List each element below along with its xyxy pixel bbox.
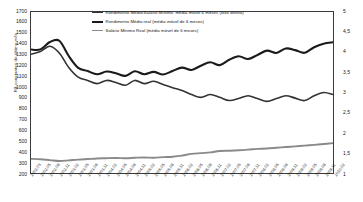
y-tick-left: 300 <box>2 161 27 166</box>
series-line-1 <box>31 40 333 76</box>
y-tick-right: 5 <box>343 9 346 14</box>
legend-swatch-icon <box>92 21 103 23</box>
x-axis: 2002.032002.052002.082002.112003.022003.… <box>30 175 334 202</box>
legend-label: Salário Mínimo Real (média móvel de 6 me… <box>106 28 199 33</box>
y-tick-right: 3 <box>343 90 346 95</box>
y-tick-right: 2 <box>343 131 346 136</box>
chart-container: R$ constantes do último mês 170016001500… <box>0 0 363 202</box>
y-tick-left: 700 <box>2 117 27 122</box>
y-tick-left: 500 <box>2 139 27 144</box>
y-tick-left: 200 <box>2 172 27 177</box>
y-tick-left: 800 <box>2 106 27 111</box>
y-tick-right: 4,5 <box>343 29 350 34</box>
legend-item-2: Salário Mínimo Real (média móvel de 6 me… <box>92 26 307 35</box>
plot-area <box>30 11 334 174</box>
y-tick-right: 1 <box>343 172 346 177</box>
y-tick-right: 4 <box>343 49 346 54</box>
y-tick-right: 2,5 <box>343 110 350 115</box>
chart-legend: Rendimento Médio/Salário Mínimo: média m… <box>92 8 307 35</box>
series-line-0 <box>31 46 333 101</box>
y-tick-left: 900 <box>2 95 27 100</box>
y-tick-left: 600 <box>2 128 27 133</box>
y-tick-left: 1100 <box>2 74 27 79</box>
y-tick-left: 1600 <box>2 19 27 24</box>
legend-label: Rendimento Médio/Salário Mínimo: média m… <box>106 10 244 15</box>
legend-label: Rendimento Médio real (média móvel de 6 … <box>106 19 205 24</box>
y-tick-left: 1000 <box>2 85 27 90</box>
legend-swatch-icon <box>92 30 103 31</box>
series-canvas <box>31 12 333 173</box>
y-tick-left: 1400 <box>2 41 27 46</box>
y-tick-right: 1,5 <box>343 151 350 156</box>
y-tick-right: 3,5 <box>343 70 350 75</box>
y-axis-left: R$ constantes do último mês 170016001500… <box>0 0 27 202</box>
legend-swatch-icon <box>92 12 103 13</box>
y-tick-left: 1500 <box>2 30 27 35</box>
y-tick-left: 400 <box>2 150 27 155</box>
legend-item-1: Rendimento Médio real (média móvel de 6 … <box>92 17 307 26</box>
y-tick-left: 1300 <box>2 52 27 57</box>
y-tick-left: 1700 <box>2 9 27 14</box>
y-tick-left: 1200 <box>2 63 27 68</box>
series-line-2 <box>31 143 333 161</box>
legend-item-0: Rendimento Médio/Salário Mínimo: média m… <box>92 8 307 17</box>
